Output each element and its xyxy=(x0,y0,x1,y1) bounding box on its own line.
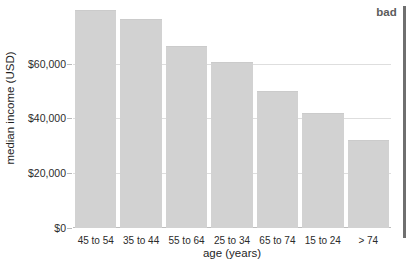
y-axis-tick-label: $20,000 xyxy=(28,168,66,178)
page-edge-rule xyxy=(403,6,406,238)
y-axis-tick-mark xyxy=(67,64,72,65)
bar xyxy=(75,10,116,228)
bar xyxy=(120,19,161,228)
bar xyxy=(166,46,207,228)
y-axis-tick-labels: $0$20,000$40,000$60,000 xyxy=(0,6,66,228)
bar xyxy=(257,91,298,228)
plot-area xyxy=(73,6,391,228)
bar xyxy=(348,140,389,228)
y-axis-tick-mark xyxy=(67,228,72,229)
y-axis-tick-mark xyxy=(67,118,72,119)
y-axis-tick-label: $40,000 xyxy=(28,113,66,123)
y-axis-tick-mark xyxy=(67,173,72,174)
bar xyxy=(211,62,252,228)
x-axis-tick-labels: 45 to 5435 to 4455 to 6425 to 3465 to 74… xyxy=(73,231,391,247)
x-axis-tick-label: > 74 xyxy=(342,235,395,247)
x-axis-title: age (years) xyxy=(73,247,391,259)
y-axis-tick-label: $60,000 xyxy=(28,59,66,69)
bar xyxy=(302,113,343,228)
y-axis-tick-label: $0 xyxy=(54,223,66,233)
chart-screenshot: bad median income (USD) $0$20,000$40,000… xyxy=(0,0,417,276)
